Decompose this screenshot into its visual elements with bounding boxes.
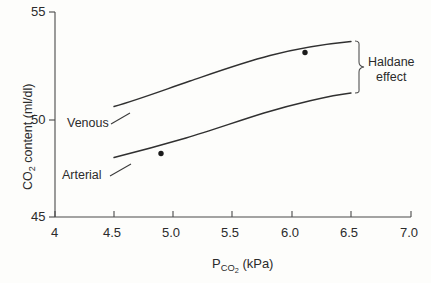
x-tick-label-7-0: 7.0 [400, 226, 418, 239]
x-axis-title-suffix: (kPa) [242, 256, 273, 271]
y-tick-label-45: 45 [31, 210, 45, 223]
x-tick-label-4: 4 [51, 226, 58, 239]
venous-series-label: Venous [67, 117, 109, 130]
y-axis-title-suffix: content (ml/dl) [21, 84, 35, 167]
y-axis-title-prefix: CO [21, 171, 35, 190]
haldane-effect-label: Haldane effect [368, 55, 415, 85]
arterial-data-point [158, 151, 163, 156]
x-axis-title-subscript: CO2 [221, 263, 239, 273]
y-tick-label-55: 55 [31, 5, 45, 18]
venous-data-point [302, 50, 307, 55]
arterial-curve [114, 93, 351, 158]
x-tick-label-4-5: 4.5 [103, 226, 121, 239]
haldane-bracket [355, 41, 364, 93]
arterial-series-label: Arterial [62, 169, 102, 182]
x-tick-label-6-0: 6.0 [281, 226, 299, 239]
x-axis-title-sub-small: 2 [235, 266, 239, 275]
co2-dissociation-chart: 55 50 45 4 4.5 5.0 5.5 6.0 6.5 7.0 CO2 c… [0, 0, 431, 283]
y-axis-title: CO2 content (ml/dl) [22, 84, 37, 190]
haldane-effect-label-line1: Haldane [368, 55, 415, 70]
venous-leader-line [111, 113, 130, 124]
x-tick-label-5-5: 5.5 [221, 226, 239, 239]
haldane-effect-label-line2: effect [368, 70, 415, 85]
x-axis-title: PCO2 (kPa) [212, 257, 273, 274]
x-tick-label-6-5: 6.5 [340, 226, 358, 239]
chart-canvas [0, 0, 431, 283]
x-axis-title-prefix: P [212, 256, 221, 271]
venous-curve [114, 42, 351, 107]
y-axis-title-subscript: 2 [27, 166, 37, 171]
x-tick-label-5-0: 5.0 [162, 226, 180, 239]
x-axis-title-sub-main: CO [221, 263, 235, 273]
arterial-leader-line [110, 164, 131, 176]
